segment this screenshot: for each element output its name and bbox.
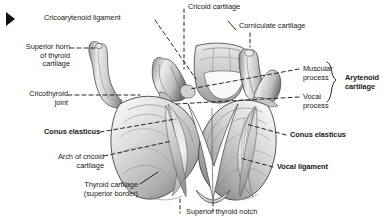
label-muscular-process: Muscular process — [303, 65, 333, 82]
label-superior-thyroid-notch: Superior thyroid notch — [186, 208, 257, 217]
label-arytenoid-cartilage: Arytenoid cartilage — [345, 74, 379, 91]
label-conus-elasticus-left: Conus elasticus — [6, 128, 100, 137]
muscular-process-left — [180, 85, 195, 98]
label-thyroid-cartilage-superior-border: Thyroid cartilage (superior border) — [46, 181, 138, 198]
label-conus-elasticus-right: Conus elasticus — [290, 131, 346, 140]
label-corniculate-cartilage: Corniculate cartilage — [239, 22, 305, 31]
superior-horn-left — [89, 42, 123, 108]
larynx-anatomy-figure: Cricoarytenoid ligament Cricoid cartilag… — [0, 0, 390, 222]
corner-triangle-marker — [6, 12, 15, 26]
leader-corniculate-cartilage — [228, 21, 236, 30]
label-arch-of-cricoid-cartilage: Arch of cricoid cartilage — [26, 153, 104, 170]
label-cricothyroid-joint: Cricothyroid joint — [14, 90, 68, 107]
label-vocal-process: Vocal process — [303, 93, 329, 110]
larynx-drawing — [89, 42, 281, 203]
label-cricoarytenoid-ligament: Cricoarytenoid ligament — [44, 14, 121, 23]
label-vocal-ligament: Vocal ligament — [277, 163, 328, 172]
label-cricoid-cartilage: Cricoid cartilage — [188, 3, 240, 12]
label-superior-horn-of-thyroid-cartilage: Superior horn of thyroid cartilage — [8, 43, 70, 69]
